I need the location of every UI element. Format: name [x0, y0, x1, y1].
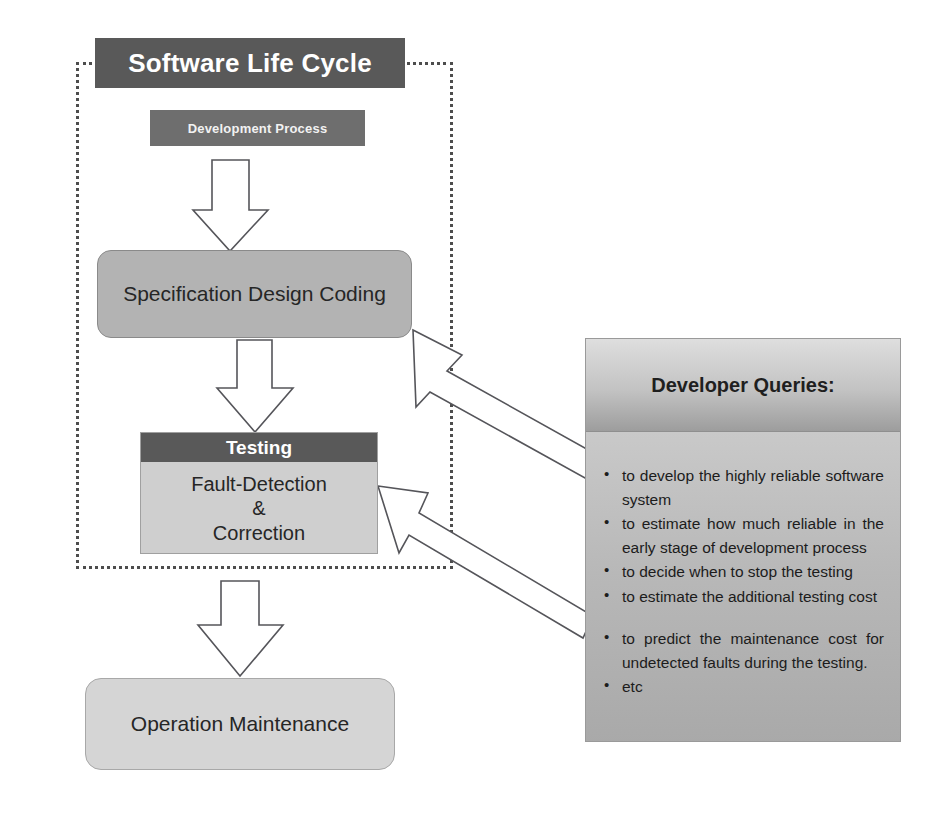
page-title: Software Life Cycle	[95, 38, 405, 88]
page-title-text: Software Life Cycle	[128, 48, 372, 79]
diagram-canvas: Software Life Cycle Development Process …	[0, 0, 943, 831]
node-testing-line-1: Fault-Detection	[191, 472, 327, 496]
list-item: to decide when to stop the testing	[602, 560, 884, 584]
list-item: etc	[602, 675, 884, 699]
developer-queries-list: to develop the highly reliable software …	[602, 464, 884, 699]
node-testing-line-2: &	[252, 496, 265, 520]
list-item: to predict the maintenance cost for unde…	[602, 627, 884, 674]
node-operation-label: Operation Maintenance	[131, 712, 349, 736]
node-testing-header-label: Testing	[226, 437, 292, 459]
node-development-process-label: Development Process	[188, 121, 328, 136]
node-specification-design-coding: Specification Design Coding	[97, 250, 412, 338]
node-testing: Testing Fault-Detection & Correction	[140, 432, 378, 554]
developer-queries-body: to develop the highly reliable software …	[586, 432, 900, 742]
flow-arrow-down-3	[198, 581, 283, 676]
developer-queries-panel: Developer Queries: to develop the highly…	[585, 338, 901, 742]
developer-queries-title: Developer Queries:	[651, 374, 834, 397]
list-item: to develop the highly reliable software …	[602, 464, 884, 511]
list-item: to estimate the additional testing cost	[602, 585, 884, 609]
list-item: to estimate how much reliable in the ear…	[602, 512, 884, 559]
node-testing-header: Testing	[141, 433, 377, 462]
node-operation-maintenance: Operation Maintenance	[85, 678, 395, 770]
node-development-process: Development Process	[150, 110, 365, 146]
node-specification-label: Specification Design Coding	[123, 282, 386, 306]
node-testing-body: Fault-Detection & Correction	[141, 462, 377, 555]
node-testing-line-3: Correction	[213, 521, 305, 545]
developer-queries-header: Developer Queries:	[586, 339, 900, 432]
